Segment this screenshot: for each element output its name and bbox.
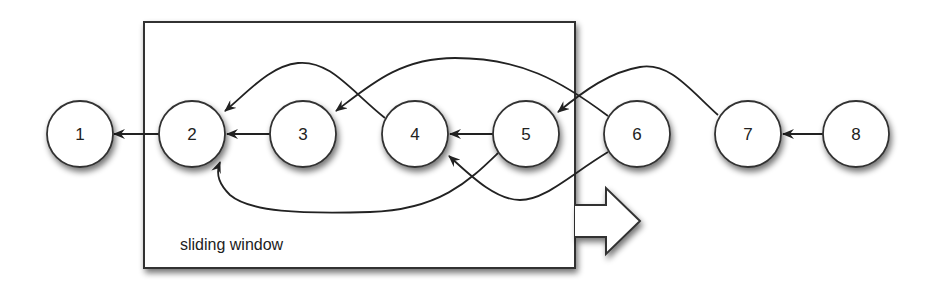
node-3[interactable]: 3	[270, 101, 336, 167]
node-7-label: 7	[743, 125, 752, 144]
window-direction-arrow-icon	[575, 188, 640, 254]
sliding-window-diagram: sliding window 1 2	[0, 0, 941, 291]
node-8[interactable]: 8	[823, 101, 889, 167]
node-6[interactable]: 6	[604, 101, 670, 167]
sliding-window-label: sliding window	[180, 236, 284, 253]
node-2-label: 2	[187, 125, 196, 144]
node-4-label: 4	[410, 125, 419, 144]
node-2[interactable]: 2	[159, 101, 225, 167]
node-3-label: 3	[298, 125, 307, 144]
node-8-label: 8	[851, 125, 860, 144]
node-4[interactable]: 4	[382, 101, 448, 167]
node-1[interactable]: 1	[47, 101, 113, 167]
node-7[interactable]: 7	[715, 101, 781, 167]
node-1-label: 1	[75, 125, 84, 144]
node-5-label: 5	[521, 125, 530, 144]
node-5[interactable]: 5	[493, 101, 559, 167]
node-6-label: 6	[632, 125, 641, 144]
